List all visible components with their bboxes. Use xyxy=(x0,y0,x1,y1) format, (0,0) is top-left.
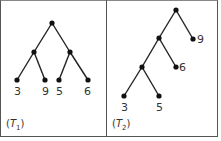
tree-t1-nodes xyxy=(14,20,90,82)
leaf-label: 9 xyxy=(197,34,204,45)
trees-drawing xyxy=(0,0,221,141)
leaf-label: 3 xyxy=(14,86,21,97)
tree-t1 xyxy=(17,23,88,80)
caption-t2: (T2) xyxy=(112,118,130,132)
caption-t1: (T1) xyxy=(6,118,24,132)
leaf-label: 9 xyxy=(42,86,49,97)
leaf-label: 5 xyxy=(156,102,163,113)
leaf-label: 6 xyxy=(84,86,91,97)
tree-t2 xyxy=(124,10,193,96)
leaf-label: 3 xyxy=(121,102,128,113)
leaf-label: 6 xyxy=(179,62,186,73)
leaf-label: 5 xyxy=(56,86,63,97)
tree-t2-nodes xyxy=(121,7,195,98)
